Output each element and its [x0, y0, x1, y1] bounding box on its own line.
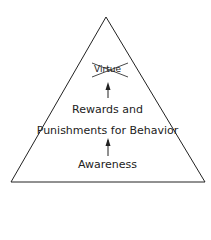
rewards-label-line1: Rewards and [2, 103, 211, 116]
rewards-label-line2: Punishments for Behavior [2, 124, 211, 137]
arrow-up-icon-upper [106, 82, 111, 98]
arrow-up-icon-lower [106, 138, 111, 156]
awareness-label: Awareness [2, 158, 211, 171]
virtue-label: Virtue [2, 63, 211, 76]
